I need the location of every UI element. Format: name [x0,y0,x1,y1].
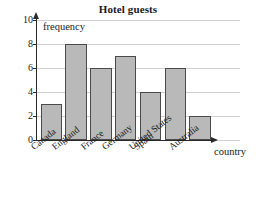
plot-area [37,20,240,140]
y-tick-label: 10 [3,15,33,25]
y-axis-label: frequency [43,21,85,32]
y-axis-arrow-icon [33,12,39,19]
bar-chart: Hotel guests 0246810 frequency country C… [0,0,256,208]
bar [165,68,187,140]
y-tick-label: 2 [3,111,33,121]
y-tick-label: 6 [3,63,33,73]
y-tick-label: 4 [3,87,33,97]
x-axis-category-labels: CanadaEnglandFranceGermanySpainUnited St… [0,140,256,208]
y-axis-line [36,18,37,141]
y-tick-label: 8 [3,39,33,49]
